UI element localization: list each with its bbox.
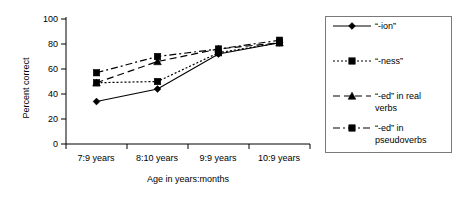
legend-label-2: “-ed” in real (375, 91, 421, 101)
series-line-0 (97, 43, 280, 102)
x-tick-label-2: 9:9 years (199, 153, 237, 163)
legend-marker-3 (349, 125, 355, 131)
data-point-s0-x0 (93, 98, 100, 105)
x-tick-label-3: 10:9 years (258, 153, 301, 163)
data-point-s1-x1 (154, 78, 160, 84)
data-point-s3-x0 (93, 70, 99, 76)
y-tick-label-40: 40 (48, 89, 58, 99)
x-tick-label-1: 8:10 years (136, 153, 179, 163)
data-point-s3-x3 (276, 37, 282, 43)
series-line-2 (97, 43, 280, 83)
chart-figure: Percent correct 100 80 60 40 20 0 7:9 ye… (0, 0, 460, 208)
y-tick-label-80: 80 (48, 39, 58, 49)
series-2 (93, 39, 284, 86)
y-tick-label-0: 0 (53, 139, 58, 149)
y-tick-label-100: 100 (43, 14, 58, 24)
series-1 (93, 40, 282, 86)
x-axis-title: Age in years:months (147, 174, 230, 184)
series-layer (93, 37, 284, 105)
legend-label-3: “-ed” in (375, 123, 404, 133)
y-tick-label-20: 20 (48, 114, 58, 124)
y-tick-label-60: 60 (48, 64, 58, 74)
x-tick-label-0: 7:9 years (77, 153, 115, 163)
line-chart: Percent correct 100 80 60 40 20 0 7:9 ye… (0, 0, 460, 208)
legend-label-0: “-ion” (375, 21, 396, 31)
y-axis-title: Percent correct (21, 57, 31, 119)
legend-label-2-cont: verbs (375, 103, 398, 113)
data-point-s3-x2 (215, 46, 221, 52)
data-point-s0-x1 (154, 86, 161, 93)
legend-marker-1 (349, 58, 355, 64)
legend-label-1: “-ness” (375, 56, 403, 66)
series-3 (93, 37, 282, 76)
data-point-s3-x1 (154, 53, 160, 59)
legend-label-3-cont: pseudoverbs (375, 135, 427, 145)
series-0 (93, 39, 283, 105)
series-line-1 (97, 43, 280, 83)
